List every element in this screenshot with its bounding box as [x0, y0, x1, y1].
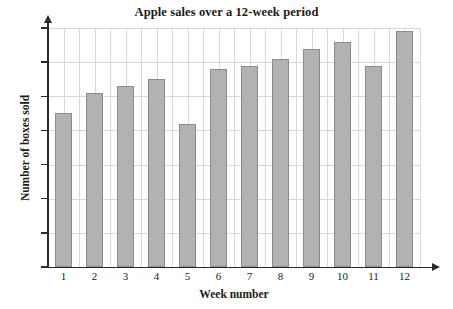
x-axis-tick-label: 2 [80, 270, 110, 282]
y-axis-tick [41, 27, 48, 28]
y-axis-tick [41, 96, 48, 97]
gridline-vertical [79, 28, 80, 267]
bar-week-10 [334, 42, 351, 267]
bar-week-9 [303, 49, 320, 268]
gridline-vertical [234, 28, 235, 267]
gridline-vertical [265, 28, 266, 267]
bar-week-2 [86, 93, 103, 267]
x-axis-line [42, 267, 433, 269]
gridline-vertical [389, 28, 390, 267]
gridline-vertical [358, 28, 359, 267]
x-axis-title: Week number [48, 288, 420, 300]
x-axis-tick-label: 1 [49, 270, 79, 282]
gridline-vertical [110, 28, 111, 267]
gridline-vertical [141, 28, 142, 267]
x-axis-tick-label: 5 [173, 270, 203, 282]
x-axis-tick-label: 12 [390, 270, 420, 282]
gridline-vertical [420, 28, 421, 267]
x-axis-arrow-icon [432, 263, 440, 271]
bar-week-7 [241, 66, 258, 267]
y-axis-arrow-icon [44, 15, 52, 23]
bar-week-6 [210, 69, 227, 267]
bar-week-5 [179, 124, 196, 267]
plot-area [48, 28, 420, 267]
bar-week-8 [272, 59, 289, 267]
bar-week-4 [148, 79, 165, 267]
y-axis-tick [41, 130, 48, 131]
x-axis-tick-label: 4 [142, 270, 172, 282]
bar-week-12 [396, 31, 413, 267]
y-axis-tick [41, 61, 48, 62]
y-axis-tick [41, 164, 48, 165]
x-axis-tick-label: 7 [235, 270, 265, 282]
bar-chart-figure: Apple sales over a 12-week period Number… [0, 0, 453, 309]
gridline-vertical [172, 28, 173, 267]
bar-week-11 [365, 66, 382, 267]
chart-title: Apple sales over a 12-week period [0, 5, 453, 20]
y-axis-line [47, 22, 49, 267]
bar-week-1 [55, 113, 72, 267]
y-axis-title: Number of boxes sold [19, 48, 31, 248]
x-axis-tick-label: 8 [266, 270, 296, 282]
gridline-vertical [296, 28, 297, 267]
bar-week-3 [117, 86, 134, 267]
y-axis-tick [41, 266, 48, 267]
gridline-vertical [327, 28, 328, 267]
x-axis-tick-label: 11 [359, 270, 389, 282]
x-axis-tick-label: 10 [328, 270, 358, 282]
y-axis-tick [41, 232, 48, 233]
x-axis-tick-label: 3 [111, 270, 141, 282]
y-axis-tick [41, 198, 48, 199]
x-axis-tick-label: 9 [297, 270, 327, 282]
gridline-vertical [203, 28, 204, 267]
x-axis-tick-label: 6 [204, 270, 234, 282]
